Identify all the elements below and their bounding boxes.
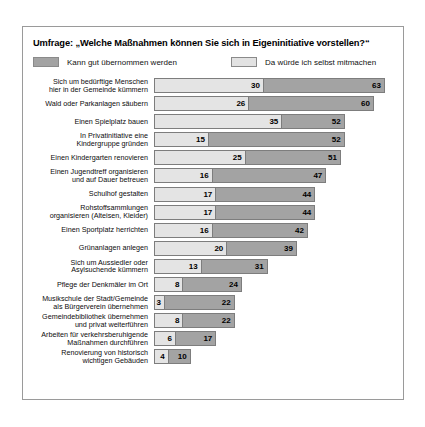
bar-value-kann-gut-uebernommen: 31 [202,259,268,274]
bar-row: Einen Spielplatz bauen3552 [23,114,403,129]
bar-area: 1744 [154,187,403,202]
bar-value-selbst-mitmachen: 3 [154,295,165,310]
bar-value-selbst-mitmachen: 4 [154,349,169,364]
bar-row-label: Sich um Aussiedler oderAsylsuchende kümm… [23,259,154,275]
bar-value-selbst-mitmachen: 17 [154,187,216,202]
bar-value-kann-gut-uebernommen: 51 [246,150,341,165]
bar-value-kann-gut-uebernommen: 47 [213,168,327,183]
bar-area: 1647 [154,168,403,183]
bar-row-label: Grünanlagen anlegen [23,244,154,252]
bar-area: 617 [154,331,403,346]
bar-area: 1552 [154,132,403,147]
legend-entry-kann-gut-uebernommen: Kann gut übernommen werden [33,57,231,67]
bar-row: Einen Sportplatz herrichten1642 [23,223,403,238]
bar-chart-plot: Sich um bedürftige Menschenhier in der G… [23,78,403,364]
bar-row-label: Einen Spielplatz bauen [23,118,154,126]
bar-value-selbst-mitmachen: 17 [154,205,216,220]
chart-title: Umfrage: „Welche Maßnahmen können Sie si… [33,38,403,48]
bar-row-label: Pflege der Denkmäler im Ort [23,281,154,289]
bar-row-label: Renovierung von historischwichtigen Gebä… [23,349,154,365]
chart-legend: Kann gut übernommen werden Da würde ich … [33,57,395,67]
bar-value-kann-gut-uebernommen: 22 [183,313,234,328]
bar-value-selbst-mitmachen: 30 [154,78,264,93]
bar-row: Musikschule der Stadt/Gemeindeals Bürger… [23,295,403,310]
bar-area: 824 [154,277,403,292]
legend-swatch-dark-icon [33,57,59,67]
bar-row-label: Wald oder Parkanlagen säubern [23,100,154,108]
bar-value-selbst-mitmachen: 13 [154,259,202,274]
bar-value-selbst-mitmachen: 16 [154,223,213,238]
bar-value-selbst-mitmachen: 35 [154,114,282,129]
bar-area: 410 [154,349,403,364]
bar-area: 1744 [154,205,403,220]
bar-value-kann-gut-uebernommen: 24 [183,277,242,292]
bar-row: Einen Kindergarten renovieren2551 [23,150,403,165]
bar-value-selbst-mitmachen: 20 [154,241,227,256]
bar-row: Pflege der Denkmäler im Ort824 [23,277,403,292]
bar-row-label: Sich um bedürftige Menschenhier in der G… [23,78,154,94]
chart-panel: Umfrage: „Welche Maßnahmen können Sie si… [22,26,404,400]
bar-row-label: Rohstoffsammlungenorganisieren (Alteisen… [23,204,154,220]
bar-area: 1331 [154,259,403,274]
bar-row: Einen Jugendtreff organisierenund auf Da… [23,168,403,183]
bar-row: In Privatinitiative eineKindergruppe grü… [23,132,403,147]
bar-value-kann-gut-uebernommen: 60 [249,96,374,111]
bar-row-label: Gemeindebibliothek übernehmenund privat … [23,313,154,329]
legend-label-light: Da würde ich selbst mitmachen [265,58,376,67]
bar-row-label: Musikschule der Stadt/Gemeindeals Bürger… [23,295,154,311]
bar-value-selbst-mitmachen: 25 [154,150,246,165]
bar-value-kann-gut-uebernommen: 52 [209,132,345,147]
bar-row: Sich um Aussiedler oderAsylsuchende kümm… [23,259,403,274]
bar-value-kann-gut-uebernommen: 42 [213,223,308,238]
bar-area: 2039 [154,241,403,256]
bar-row: Schulhof gestalten1744 [23,187,403,202]
bar-row: Arbeiten für verkehrsberuhigendeMaßnahme… [23,331,403,346]
bar-value-kann-gut-uebernommen: 10 [169,349,191,364]
bar-area: 1642 [154,223,403,238]
bar-row-label: In Privatinitiative eineKindergruppe grü… [23,132,154,148]
bar-area: 322 [154,295,403,310]
bar-row: Renovierung von historischwichtigen Gebä… [23,349,403,364]
bar-row: Rohstoffsammlungenorganisieren (Alteisen… [23,205,403,220]
bar-value-selbst-mitmachen: 16 [154,168,213,183]
bar-area: 3552 [154,114,403,129]
bar-row: Gemeindebibliothek übernehmenund privat … [23,313,403,328]
bar-row: Wald oder Parkanlagen säubern2660 [23,96,403,111]
bar-value-selbst-mitmachen: 8 [154,277,183,292]
bar-row: Grünanlagen anlegen2039 [23,241,403,256]
bar-value-selbst-mitmachen: 8 [154,313,183,328]
legend-swatch-light-icon [231,57,257,67]
bar-value-kann-gut-uebernommen: 22 [165,295,235,310]
bar-value-kann-gut-uebernommen: 39 [227,241,297,256]
bar-area: 822 [154,313,403,328]
legend-entry-selbst-mitmachen: Da würde ich selbst mitmachen [231,57,376,67]
bar-area: 3063 [154,78,403,93]
bar-row-label: Arbeiten für verkehrsberuhigendeMaßnahme… [23,331,154,347]
bar-row: Sich um bedürftige Menschenhier in der G… [23,78,403,93]
bar-value-kann-gut-uebernommen: 44 [216,205,315,220]
bar-value-kann-gut-uebernommen: 52 [282,114,344,129]
bar-value-selbst-mitmachen: 6 [154,331,176,346]
bar-row-label: Einen Kindergarten renovieren [23,154,154,162]
bar-value-selbst-mitmachen: 26 [154,96,249,111]
bar-value-kann-gut-uebernommen: 44 [216,187,315,202]
bar-value-kann-gut-uebernommen: 17 [176,331,216,346]
legend-label-dark: Kann gut übernommen werden [67,58,177,67]
bar-area: 2551 [154,150,403,165]
bar-value-kann-gut-uebernommen: 63 [264,78,385,93]
bar-value-selbst-mitmachen: 15 [154,132,209,147]
bar-area: 2660 [154,96,403,111]
bar-row-label: Einen Jugendtreff organisierenund auf Da… [23,168,154,184]
bar-row-label: Einen Sportplatz herrichten [23,226,154,234]
bar-row-label: Schulhof gestalten [23,190,154,198]
